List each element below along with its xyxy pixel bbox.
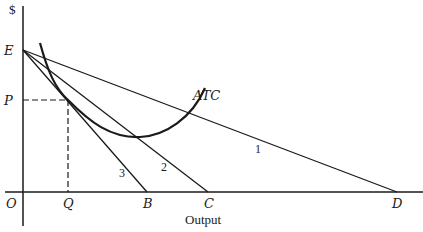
line-label-2: 2 [161, 160, 167, 174]
atc-curve [40, 43, 205, 137]
point-label-c: C [204, 196, 214, 211]
diagram-canvas: $ E P O Q B C D Output ATC 1 2 3 [0, 0, 423, 232]
curve-label-atc: ATC [192, 88, 220, 103]
line-3 [23, 50, 147, 192]
line-1 [23, 50, 397, 192]
point-label-d: D [391, 196, 403, 211]
line-label-1: 1 [255, 142, 261, 156]
line-label-3: 3 [119, 166, 125, 180]
point-label-b: B [142, 196, 153, 211]
x-axis-label: Output [185, 212, 222, 227]
point-label-q: Q [63, 196, 74, 211]
origin-label: O [6, 196, 17, 211]
point-label-e: E [3, 43, 14, 58]
y-axis-label: $ [9, 2, 16, 17]
point-label-p: P [3, 93, 13, 108]
